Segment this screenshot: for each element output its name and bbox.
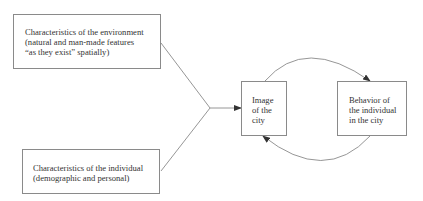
text-line: Image <box>252 95 273 105</box>
text-line: (natural and man-made features <box>25 37 144 47</box>
text-line: (demographic and personal) <box>33 173 143 183</box>
behavior-in-city-box: Behavior of the individual in the city <box>337 81 407 136</box>
image-of-city-box: Image of the city <box>241 81 287 136</box>
environment-to-junction-line <box>161 43 210 108</box>
individual-characteristics-box: Characteristics of the individual (demog… <box>22 149 160 194</box>
image-of-city-label: Image of the city <box>252 95 273 125</box>
individual-characteristics-label: Characteristics of the individual (demog… <box>33 163 143 183</box>
image-to-behavior-curved-arrow <box>265 58 370 81</box>
text-line: “as they exist” spatially) <box>25 47 144 57</box>
text-line: Characteristics of the individual <box>33 163 143 173</box>
behavior-in-city-label: Behavior of the individual in the city <box>349 95 397 125</box>
environment-characteristics-box: Characteristics of the environment (natu… <box>13 14 161 69</box>
text-line: Behavior of <box>349 95 397 105</box>
text-line: of the <box>252 105 273 115</box>
text-line: Characteristics of the environment <box>25 27 144 37</box>
text-line: city <box>252 115 273 125</box>
individual-to-junction-line <box>161 108 210 171</box>
text-line: the individual <box>349 105 397 115</box>
text-line: in the city <box>349 115 397 125</box>
environment-characteristics-label: Characteristics of the environment (natu… <box>25 27 144 57</box>
behavior-to-image-curved-arrow <box>263 136 370 161</box>
